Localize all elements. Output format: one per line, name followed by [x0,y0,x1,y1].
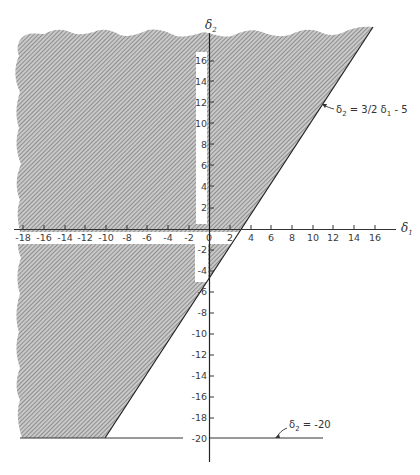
y-tick-label: -18 [191,412,207,423]
y-tick-label: -6 [198,286,207,297]
x-tick-label: -8 [122,232,131,243]
y-tick-label: 4 [201,181,207,192]
x-tick-label: -12 [77,232,93,243]
x-tick-label: 0 [206,232,212,243]
x-tick-label: -10 [98,232,114,243]
feasible-region-diagram: -18 -16 -14 -12 -10 -8 -6 -4 -2 0 2 4 6 … [0,0,420,475]
x-tick-label: 6 [268,232,274,243]
y-tick-label: 2 [201,202,207,213]
y-tick-label: -10 [191,328,207,339]
x-tick-label: -2 [184,232,193,243]
x-tick-label: 12 [327,232,339,243]
y-tick-label: -8 [198,307,207,318]
x-tick-label: 2 [227,232,233,243]
y-tick-label: -14 [191,370,207,381]
x-tick-label: 10 [307,232,319,243]
arrow-icon [275,434,280,438]
x-tick-label: -14 [57,232,73,243]
x-tick-label: -18 [15,232,31,243]
y-tick-label: 14 [195,76,207,87]
y-tick-label: -4 [198,265,207,276]
x-tick-label: 16 [369,232,381,243]
x-tick-label: -4 [163,232,172,243]
y-tick-label: -2 [198,244,207,255]
y-tick-label: 8 [201,139,207,150]
y-tick-label: 10 [195,118,207,129]
diagonal-constraint-label: δ2 = 3/2 δ1 - 5 [336,104,408,118]
x-tick-label: -16 [36,232,52,243]
y-tick-label: 12 [195,97,207,108]
y-tick-label: 6 [201,160,207,171]
x-tick-label: 8 [289,232,295,243]
x-tick-label: 4 [248,232,254,243]
x-tick-label: -6 [142,232,151,243]
floor-constraint-label: δ2 = -20 [289,419,331,433]
x-tick-label: 14 [348,232,360,243]
x-axis-label: δ1 [401,221,413,237]
y-tick-label: -12 [191,349,207,360]
y-tick-label: -20 [191,433,207,444]
y-tick-label: 16 [195,55,207,66]
y-axis-label: δ2 [205,18,217,34]
y-tick-label: -16 [191,391,207,402]
